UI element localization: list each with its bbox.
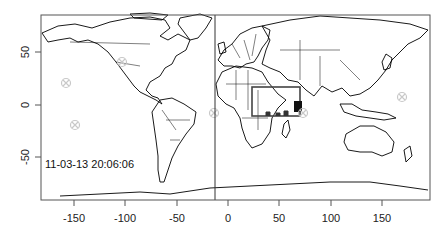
x-axis-labels: -150 -100 -50 0 50 100 150 — [63, 212, 391, 224]
x-tick-label: 100 — [322, 212, 340, 224]
x-tick-label: -150 — [63, 212, 85, 224]
y-axis — [35, 52, 41, 157]
highlight-bar-series — [266, 111, 288, 116]
x-tick-label: -50 — [169, 212, 185, 224]
marker-circle-x-icon — [71, 121, 80, 130]
indonesia-outline — [340, 104, 396, 120]
british-isles-outline — [218, 42, 226, 54]
asia-borders — [280, 40, 360, 86]
y-axis-labels: 50 0 -50 — [19, 46, 31, 165]
x-axis — [74, 200, 382, 206]
africa-borders — [226, 70, 268, 130]
y-tick-label: 0 — [19, 102, 31, 108]
event-markers — [62, 58, 407, 130]
world-map-plot: -150 -100 -50 0 50 100 150 50 0 -50 11-0… — [0, 0, 441, 237]
y-tick-label: 50 — [19, 46, 31, 58]
timestamp-label: 11-03-13 20:06:06 — [45, 158, 134, 170]
y-tick-label: -50 — [19, 149, 31, 165]
x-tick-label: 0 — [225, 212, 231, 224]
x-tick-label: 50 — [273, 212, 285, 224]
south-america-borders — [162, 110, 190, 140]
europe-borders — [232, 34, 256, 60]
madagascar-outline — [282, 120, 290, 138]
marker-circle-x-icon — [62, 79, 71, 88]
arctic-islands-outline — [130, 13, 168, 20]
marker-circle-x-icon — [210, 109, 219, 118]
africa-outline — [216, 66, 286, 148]
asia-outline — [262, 16, 428, 96]
antarctica-outline — [60, 182, 428, 196]
x-tick-label: -100 — [114, 212, 136, 224]
australia-outline — [344, 126, 394, 156]
north-america-outline — [42, 17, 190, 104]
marker-circle-x-icon — [398, 93, 407, 102]
new-zealand-outline — [404, 146, 412, 162]
marker-circle-x-icon — [118, 58, 127, 67]
us-canada-border — [70, 42, 150, 44]
x-tick-label: 150 — [373, 212, 391, 224]
